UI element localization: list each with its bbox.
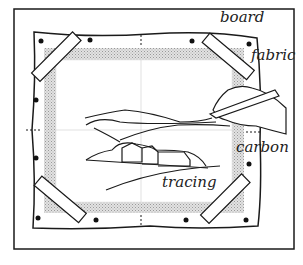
tracing-diagram: board fabric carbon tracing [0,0,303,265]
label-carbon: carbon [236,138,289,156]
illustration [0,0,303,265]
label-tracing: tracing [162,173,217,191]
label-fabric: fabric [251,46,295,64]
label-board: board [220,8,264,26]
